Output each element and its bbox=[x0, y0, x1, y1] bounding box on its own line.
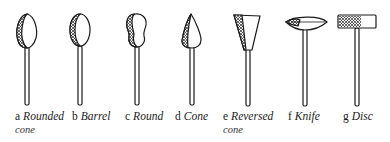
cone-bit-icon bbox=[182, 14, 201, 105]
disc-bit-icon bbox=[338, 15, 376, 106]
round-bit-icon bbox=[127, 14, 146, 105]
reversed-cone-bit-icon bbox=[234, 15, 260, 106]
label-barrel: bBarrel bbox=[72, 110, 110, 123]
label-knife: fKnife bbox=[288, 110, 320, 123]
knife-bit-icon bbox=[286, 17, 327, 106]
label-cone: dCone bbox=[175, 110, 208, 123]
label-rounded-cone: aRounded cone bbox=[15, 110, 64, 136]
label-round: cRound bbox=[125, 110, 163, 123]
label-reversed-cone: eReversed cone bbox=[223, 110, 273, 136]
label-disc: gDisc bbox=[343, 110, 373, 123]
rounded-cone-bit-icon bbox=[17, 14, 37, 105]
barrel-bit-icon bbox=[70, 14, 90, 105]
